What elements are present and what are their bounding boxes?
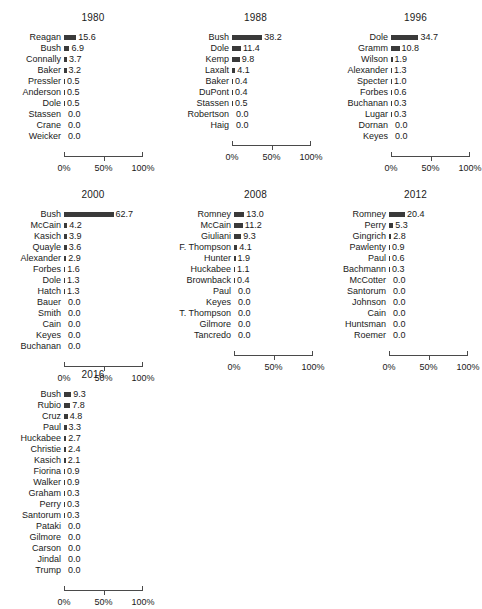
candidate-row: Christie2.4 — [0, 444, 160, 455]
panel-2012: 2012Romney20.4Perry5.3Gingrich2.8Pawlent… — [325, 177, 480, 357]
value-bar — [391, 112, 392, 117]
candidate-name: Dole — [0, 275, 64, 286]
candidate-name: Roemer — [325, 330, 389, 341]
candidate-row: T. Thompson0.0 — [160, 308, 325, 319]
value-label: 0.0 — [64, 554, 81, 565]
candidate-name: Giuliani — [160, 231, 234, 242]
candidate-name: Pawlenty — [325, 242, 389, 253]
bar-zone — [389, 209, 405, 220]
axis-tick — [389, 351, 390, 356]
bar-zone — [64, 231, 67, 242]
x-axis: 0%50%100% — [389, 355, 468, 379]
candidate-row: Keyes0.0 — [160, 297, 325, 308]
panel-1996: 1996Dole34.7Gramm10.8Wilson1.9Alexander1… — [325, 0, 480, 177]
value-bar — [64, 90, 65, 95]
axis-tick — [429, 356, 430, 360]
bar-zone — [391, 43, 400, 54]
axis-tick-label: 100% — [458, 163, 481, 173]
candidate-row: Smith0.0 — [0, 308, 160, 319]
candidate-row: Romney20.4 — [325, 209, 480, 220]
candidate-row: Perry5.3 — [325, 220, 480, 231]
candidate-rows: Romney20.4Perry5.3Gingrich2.8Pawlenty0.9… — [325, 209, 480, 341]
candidate-name: Walker — [0, 477, 64, 488]
candidate-row: Jindal0.0 — [0, 554, 160, 565]
candidate-row: Roemer0.0 — [325, 330, 480, 341]
panel-1980: 1980Reagan15.6Bush6.9Connally3.7Baker3.2… — [0, 0, 160, 177]
bar-zone — [391, 65, 392, 76]
value-label: 0.9 — [65, 477, 80, 488]
value-label: 0.0 — [64, 297, 81, 308]
candidate-name: Gilmore — [0, 532, 64, 543]
value-bar — [64, 223, 67, 228]
axis-tick — [142, 586, 143, 591]
candidate-row: Reagan15.6 — [0, 32, 160, 43]
bar-zone — [64, 54, 67, 65]
value-label: 0.9 — [65, 466, 80, 477]
candidate-row: Haig0.0 — [160, 120, 325, 131]
bar-zone — [64, 400, 70, 411]
bar-zone — [64, 488, 65, 499]
value-label: 0.0 — [232, 120, 249, 131]
value-label: 0.0 — [391, 131, 408, 142]
value-bar — [391, 46, 400, 51]
candidate-name: Stassen — [160, 98, 232, 109]
candidate-name: Dornan — [325, 120, 391, 131]
candidate-row: Carson0.0 — [0, 543, 160, 554]
value-label: 3.7 — [67, 54, 82, 65]
value-bar — [64, 513, 65, 518]
candidate-row: Bauer0.0 — [0, 297, 160, 308]
bar-zone — [391, 98, 392, 109]
candidate-name: Hatch — [0, 286, 64, 297]
candidate-name: T. Thompson — [160, 308, 234, 319]
candidate-name: Dole — [325, 32, 391, 43]
bar-zone — [64, 98, 65, 109]
bar-zone — [391, 54, 393, 65]
value-label: 0.5 — [233, 98, 248, 109]
candidate-rows: Reagan15.6Bush6.9Connally3.7Baker3.2Pres… — [0, 32, 160, 142]
candidate-name: Gingrich — [325, 231, 389, 242]
candidate-name: Bush — [0, 43, 64, 54]
value-bar — [64, 392, 71, 397]
candidate-row: McCotter0.0 — [325, 275, 480, 286]
value-label: 0.0 — [64, 308, 81, 319]
candidate-row: DuPont0.4 — [160, 87, 325, 98]
axis-tick-label: 50% — [264, 362, 282, 372]
value-label: 1.9 — [236, 253, 251, 264]
candidate-row: Brownback0.4 — [160, 275, 325, 286]
candidate-name: Romney — [325, 209, 389, 220]
value-label: 4.1 — [237, 242, 252, 253]
axis-tick-label: 0% — [382, 362, 395, 372]
bar-zone — [234, 242, 237, 253]
value-bar — [234, 223, 243, 228]
value-label: 0.3 — [65, 499, 80, 510]
value-label: 0.5 — [65, 76, 80, 87]
candidate-name: Bush — [0, 389, 64, 400]
panel-title: 1980 — [0, 12, 160, 23]
candidate-name: Graham — [0, 488, 64, 499]
candidate-name: McCain — [0, 220, 64, 231]
candidate-name: Keyes — [160, 297, 234, 308]
bar-zone — [389, 264, 390, 275]
candidate-rows: Bush9.3Rubio7.8Cruz4.8Paul3.3Huckabee2.7… — [0, 389, 160, 576]
value-bar — [232, 101, 233, 106]
value-label: 13.0 — [244, 209, 264, 220]
value-label: 0.4 — [233, 87, 248, 98]
axis-tick — [272, 146, 273, 150]
candidate-row: Gilmore0.0 — [0, 532, 160, 543]
candidate-name: Haig — [160, 120, 232, 131]
axis-tick-label: 50% — [419, 362, 437, 372]
panel-title: 1996 — [325, 12, 480, 23]
value-label: 2.4 — [66, 444, 81, 455]
value-bar — [232, 46, 241, 51]
axis-tick — [64, 152, 65, 157]
value-bar — [64, 68, 67, 73]
bar-zone — [64, 242, 67, 253]
value-bar — [64, 46, 69, 51]
candidate-row: Santorum0.3 — [0, 510, 160, 521]
value-label: 0.3 — [392, 98, 407, 109]
candidate-row: Cruz4.8 — [0, 411, 160, 422]
candidate-name: Perry — [325, 220, 389, 231]
candidate-name: Johnson — [325, 297, 389, 308]
value-label: 0.0 — [64, 330, 81, 341]
